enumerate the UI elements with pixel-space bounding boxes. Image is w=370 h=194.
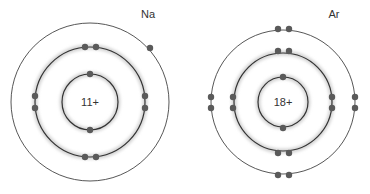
electron xyxy=(142,105,148,111)
bohr-diagram: 11+ Na 18+ Ar xyxy=(0,0,370,194)
element-symbol: Ar xyxy=(329,8,340,20)
electron xyxy=(275,48,281,54)
electron xyxy=(93,44,99,50)
electron xyxy=(208,94,214,100)
electron xyxy=(87,71,93,77)
electron xyxy=(87,127,93,133)
electron xyxy=(275,26,281,32)
electron xyxy=(82,44,88,50)
element-symbol: Na xyxy=(141,8,156,20)
electron xyxy=(280,125,286,131)
electron xyxy=(329,105,335,111)
electron xyxy=(280,74,286,80)
electron xyxy=(286,48,292,54)
electron xyxy=(286,26,292,32)
electron xyxy=(230,94,236,100)
electron xyxy=(329,94,335,100)
atom-ar: 18+ Ar xyxy=(208,8,358,178)
electron xyxy=(275,150,281,156)
electron xyxy=(352,94,358,100)
electron xyxy=(275,172,281,178)
electron xyxy=(230,105,236,111)
atom-na: 11+ Na xyxy=(11,8,169,181)
electron xyxy=(352,105,358,111)
electron xyxy=(208,105,214,111)
electron xyxy=(286,150,292,156)
electron xyxy=(147,45,153,51)
electron xyxy=(286,172,292,178)
electron xyxy=(93,154,99,160)
nucleus-charge: 18+ xyxy=(274,96,293,108)
electron xyxy=(32,93,38,99)
electron xyxy=(32,105,38,111)
electron xyxy=(82,154,88,160)
electron xyxy=(142,93,148,99)
nucleus-charge: 11+ xyxy=(81,96,99,108)
